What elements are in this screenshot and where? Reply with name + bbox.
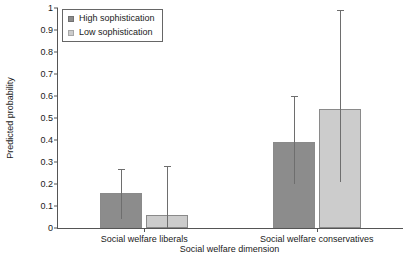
error-bar (167, 166, 168, 228)
y-axis-tick-mark (54, 30, 58, 31)
y-axis-tick-mark (54, 118, 58, 119)
error-bar-cap-top (118, 169, 125, 170)
y-axis-tick-mark (54, 228, 58, 229)
chart-figure: Predicted probability 00.10.20.30.40.50.… (0, 0, 409, 261)
legend-swatch-icon (68, 30, 74, 36)
legend-swatch-icon (68, 16, 74, 22)
x-axis-tick-mark (144, 228, 145, 232)
error-bar (294, 96, 295, 184)
y-axis-tick-mark (54, 206, 58, 207)
y-axis-tick-mark (54, 74, 58, 75)
error-bar (121, 169, 122, 220)
x-axis-label: Social welfare dimension (57, 245, 402, 254)
error-bar (340, 10, 341, 182)
legend-item-label: High sophistication (79, 14, 155, 23)
error-bar-cap-top (337, 10, 344, 11)
x-axis-tick-mark (317, 228, 318, 232)
error-bar-cap-top (291, 96, 298, 97)
y-axis-tick-mark (54, 184, 58, 185)
legend-item: Low sophistication (68, 28, 155, 37)
error-bar-cap-top (164, 166, 171, 167)
y-axis-tick-mark (54, 8, 58, 9)
legend-item: High sophistication (68, 14, 155, 23)
x-axis-tick-label: Social welfare conservatives (260, 235, 374, 244)
y-axis-label: Predicted probability (4, 8, 16, 228)
y-axis-tick-mark (54, 52, 58, 53)
x-axis-tick-label: Social welfare liberals (101, 235, 188, 244)
chart-legend: High sophisticationLow sophistication (62, 9, 163, 42)
legend-item-label: Low sophistication (79, 28, 153, 37)
y-axis-tick-mark (54, 162, 58, 163)
y-axis-tick-mark (54, 96, 58, 97)
y-axis-tick-mark (54, 140, 58, 141)
